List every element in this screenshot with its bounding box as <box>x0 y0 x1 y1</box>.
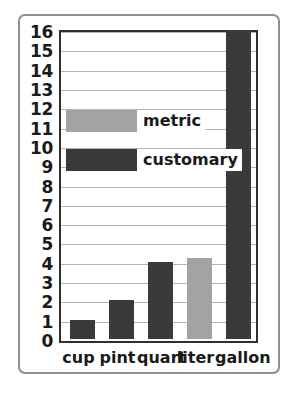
y-axis-tick-label: 13 <box>30 81 53 98</box>
y-axis-tick-label: 1 <box>41 313 53 330</box>
y-axis-tick-label: 8 <box>41 178 53 195</box>
chart-card: 161514131211109876543210 metriccustomary… <box>18 14 280 374</box>
y-axis-tick-label: 12 <box>30 101 53 118</box>
y-axis-tick-label: 16 <box>30 24 53 41</box>
y-axis-tick-label: 6 <box>41 217 53 234</box>
y-axis-tick-label: 9 <box>41 159 53 176</box>
x-axis-tick-label: gallon <box>215 345 254 371</box>
y-axis-tick-label: 14 <box>30 62 53 79</box>
y-axis-tick-label: 7 <box>41 197 53 214</box>
legend-swatch-metric <box>66 110 137 132</box>
y-axis-tick-labels: 161514131211109876543210 <box>20 30 57 343</box>
x-axis-category-labels: cuppintquartlitergallon <box>59 345 258 373</box>
legend-item-metric: metric <box>66 110 205 132</box>
y-axis-tick-label: 5 <box>41 236 53 253</box>
y-axis-tick-label: 2 <box>41 294 53 311</box>
y-axis-tick-label: 0 <box>41 333 53 350</box>
y-axis-tick-label: 10 <box>30 139 53 156</box>
legend-label-customary: customary <box>137 149 242 171</box>
legend-item-customary: customary <box>66 149 242 171</box>
y-axis-tick-label: 3 <box>41 275 53 292</box>
legend-swatch-customary <box>66 149 137 171</box>
x-axis-tick-label: quart <box>137 345 176 371</box>
x-axis-tick-label: pint <box>98 345 137 371</box>
x-axis-tick-label: liter <box>176 345 215 371</box>
y-axis-tick-label: 4 <box>41 255 53 272</box>
legend-label-metric: metric <box>137 110 205 132</box>
plot-area: metriccustomary <box>59 30 258 343</box>
x-axis-tick-label: cup <box>59 345 98 371</box>
chart-legend: metriccustomary <box>61 32 256 341</box>
y-axis-tick-label: 11 <box>30 120 53 137</box>
y-axis-tick-label: 15 <box>30 43 53 60</box>
